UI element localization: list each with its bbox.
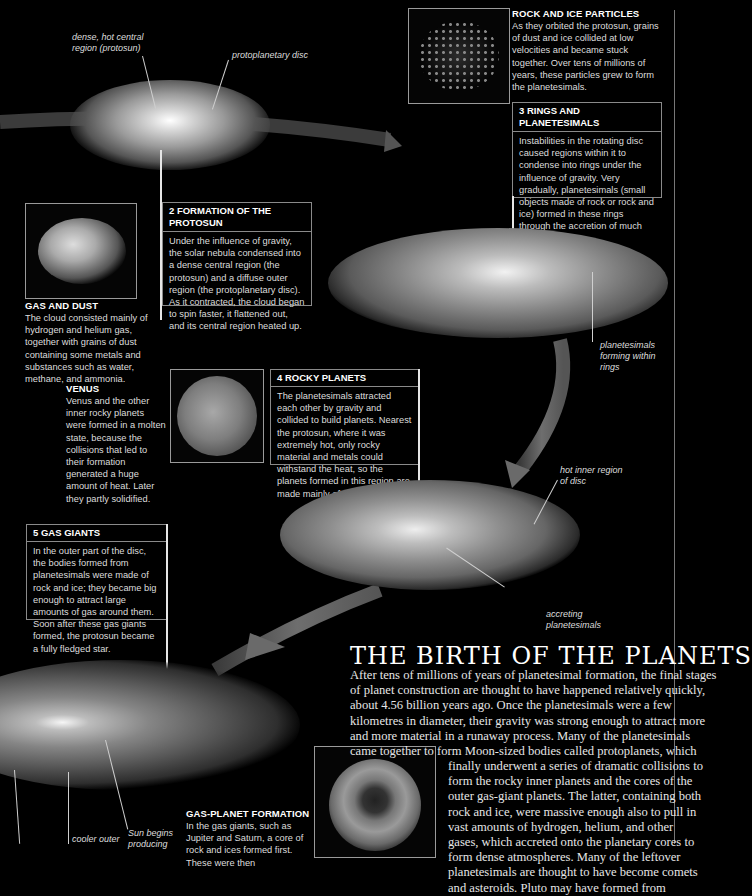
caption-gas-planet: GAS-PLANET FORMATION In the gas giants, … xyxy=(186,808,314,869)
label-hot-inner: hot inner region of disc xyxy=(560,465,623,487)
intro-line: and asteroids. Pluto may have formed fro… xyxy=(448,881,674,896)
step-2-box: 2 FORMATION OF THE PROTOSUN Under the in… xyxy=(162,202,312,306)
page-title: THE BIRTH OF THE PLANETS xyxy=(350,642,752,670)
intro-text-indented: finally underwent a series of dramatic c… xyxy=(448,759,674,896)
label-line: planetesimals xyxy=(546,620,601,631)
label-line: rings xyxy=(600,362,656,373)
step-5-box: 5 GAS GIANTS In the outer part of the di… xyxy=(26,524,168,620)
step-3-connector xyxy=(512,196,514,232)
gas-planet-core-image xyxy=(314,746,436,858)
caption-body: Venus and the other inner rocky planets … xyxy=(66,395,166,505)
label-line: region (protosun) xyxy=(72,43,144,54)
leader-line xyxy=(68,772,69,844)
label-line: hot inner region xyxy=(560,465,623,476)
label-cooler-outer: cooler outer xyxy=(72,834,120,845)
step-body: In the outer part of the disc, the bodie… xyxy=(27,542,167,659)
step-title: 2 FORMATION OF THE PROTOSUN xyxy=(163,203,311,232)
step-3-box: 3 RINGS AND PLANETESIMALS Instabilities … xyxy=(512,102,662,198)
protosun-cloud-image xyxy=(70,80,270,170)
intro-line: came together to form Moon-sized bodies … xyxy=(350,744,670,759)
label-dense-core: dense, hot central region (protosun) xyxy=(72,32,144,54)
label-line: of disc xyxy=(560,476,623,487)
label-planetesimals-rings: planetesimals forming within rings xyxy=(600,340,656,373)
intro-line: finally underwent a series of dramatic c… xyxy=(448,759,674,774)
intro-line: form dense atmospheres. Many of the left… xyxy=(448,850,674,865)
rocky-planets-disc-image xyxy=(280,480,580,590)
caption-venus: VENUS Venus and the other inner rocky pl… xyxy=(66,383,166,505)
label-protoplanetary-disc: protoplanetary disc xyxy=(232,50,308,61)
caption-body: In the gas giants, such as Jupiter and S… xyxy=(186,820,314,869)
step-title: 4 ROCKY PLANETS xyxy=(271,370,419,387)
intro-line: kilometres in diameter, their gravity wa… xyxy=(350,714,670,729)
caption-title: GAS-PLANET FORMATION xyxy=(186,808,314,820)
label-line: planetesimals xyxy=(600,340,656,351)
label-sun-begins: Sun begins producing xyxy=(128,828,173,850)
caption-gas-dust: GAS AND DUST The cloud consisted mainly … xyxy=(25,300,155,385)
venus-image xyxy=(170,369,264,463)
caption-body: The cloud consisted mainly of hydrogen a… xyxy=(25,312,155,385)
intro-line: gases, which accreted onto the planetary… xyxy=(448,835,674,850)
step-title: 3 RINGS AND PLANETESIMALS xyxy=(513,103,661,132)
caption-body: As they orbited the protosun, grains of … xyxy=(512,20,667,93)
step-body: Under the influence of gravity, the sola… xyxy=(163,232,311,337)
ring-disc-image xyxy=(328,228,668,338)
step-title: 5 GAS GIANTS xyxy=(27,525,167,542)
intro-line: outer gas-giant planets. The latter, con… xyxy=(448,789,674,804)
caption-title: VENUS xyxy=(66,383,166,395)
intro-text: After tens of millions of years of plane… xyxy=(350,668,670,759)
intro-line: and more material in a runaway process. … xyxy=(350,729,670,744)
rock-ice-particles-image xyxy=(408,8,510,104)
label-line: forming within xyxy=(600,351,656,362)
label-line: producing xyxy=(128,839,173,850)
intro-line: vast amounts of hydrogen, helium, and ot… xyxy=(448,820,674,835)
intro-line: planetesimals are thought to have become… xyxy=(448,865,674,880)
intro-line: rock and ice, were massive enough also t… xyxy=(448,805,674,820)
caption-title: GAS AND DUST xyxy=(25,300,155,312)
label-accreting: accreting planetesimals xyxy=(546,609,601,631)
intro-line: form the rocky inner planets and the cor… xyxy=(448,774,674,789)
intro-line: After tens of millions of years of plane… xyxy=(350,668,670,683)
label-line: dense, hot central xyxy=(72,32,144,43)
leader-line xyxy=(592,272,593,342)
label-line: Sun begins xyxy=(128,828,173,839)
gas-dust-cloud-image xyxy=(25,203,137,299)
intro-line: of planet construction are thought to ha… xyxy=(350,683,670,698)
caption-rock-ice: ROCK AND ICE PARTICLES As they orbited t… xyxy=(512,8,667,93)
intro-line: about 4.56 billion years ago. Once the p… xyxy=(350,698,670,713)
step-5-connector xyxy=(166,524,168,674)
step-4-box: 4 ROCKY PLANETS The planetesimals attrac… xyxy=(270,369,420,465)
caption-title: ROCK AND ICE PARTICLES xyxy=(512,8,667,20)
label-line: accreting xyxy=(546,609,601,620)
